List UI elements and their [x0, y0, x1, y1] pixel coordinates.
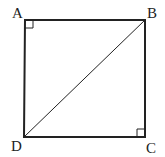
right-angle-mark-a — [25, 20, 33, 28]
vertex-label-a: A — [12, 5, 23, 21]
square-diagram: A B C D — [0, 0, 165, 157]
vertex-label-c: C — [146, 140, 156, 156]
diagonal-db — [24, 20, 145, 137]
vertex-label-b: B — [147, 5, 157, 21]
right-angle-mark-c — [137, 129, 145, 137]
vertex-label-d: D — [11, 138, 22, 154]
